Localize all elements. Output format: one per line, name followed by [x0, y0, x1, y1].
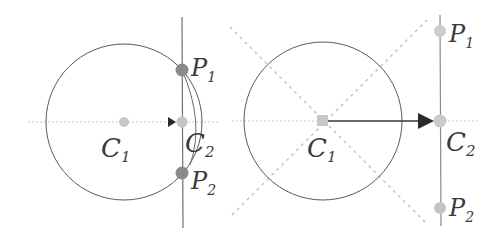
left-arrowhead-icon: [168, 117, 176, 127]
left-point-c1: [119, 117, 129, 127]
left-point-c2: [177, 117, 188, 128]
right-label-p2: P2: [448, 194, 474, 225]
left-label-p2: P2: [190, 167, 216, 198]
right-label-c1: C1: [307, 133, 336, 166]
left-label-c1: C1: [101, 133, 130, 166]
left-diagram: C1 C2 P1 P2: [28, 17, 220, 228]
right-point-c1: [317, 115, 328, 126]
right-point-c2: [434, 115, 447, 128]
left-label-p1: P1: [190, 54, 216, 85]
right-label-c2: C2: [446, 127, 475, 160]
right-diagram: C1 C2 P1 P2: [230, 15, 480, 226]
diagram-canvas: C1 C2 P1 P2 C1 C2 P1 P2: [0, 0, 501, 245]
left-label-c2: C2: [185, 128, 214, 161]
left-point-p2: [176, 167, 189, 180]
left-point-p1: [176, 64, 189, 77]
right-diagonal-2: [232, 19, 428, 215]
right-label-p1: P1: [448, 20, 474, 51]
right-point-p2: [434, 202, 446, 214]
right-arrowhead-icon: [418, 113, 434, 129]
right-point-p1: [434, 25, 446, 37]
